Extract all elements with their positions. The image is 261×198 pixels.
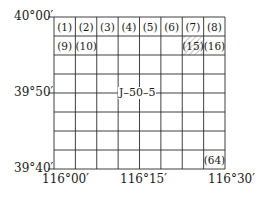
cell-label: (16) bbox=[204, 40, 225, 52]
sheet-code-label: J–50–5 bbox=[118, 87, 156, 99]
cell-label: (5) bbox=[140, 21, 161, 33]
longitude-label-left: 116°00′ bbox=[42, 173, 89, 185]
longitude-label-middle: 116°15′ bbox=[120, 173, 167, 185]
latitude-label-middle: 39°50′ bbox=[14, 86, 53, 98]
map-sheet-diagram: 40°00′ 39°50′ 39°40′ 116°00′ 116°15′ 116… bbox=[0, 0, 261, 198]
cell-label: (2) bbox=[75, 21, 96, 33]
cell-label: (4) bbox=[118, 21, 139, 33]
cell-label: (9) bbox=[54, 40, 75, 52]
cell-label: (10) bbox=[75, 40, 96, 52]
cell-label: (3) bbox=[97, 21, 118, 33]
longitude-label-right: 116°30′ bbox=[208, 173, 255, 185]
cell-label: (15) bbox=[182, 40, 203, 52]
cell-label: (6) bbox=[161, 21, 182, 33]
cell-label: (1) bbox=[54, 21, 75, 33]
cell-label: (64) bbox=[204, 154, 225, 166]
latitude-label-top: 40°00′ bbox=[14, 10, 53, 22]
cell-label: (7) bbox=[182, 21, 203, 33]
cell-label: (8) bbox=[204, 21, 225, 33]
